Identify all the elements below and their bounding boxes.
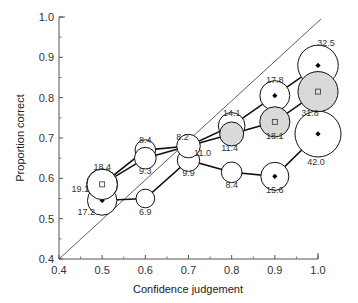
point-size-label: 19.1 <box>71 184 89 194</box>
point-size-label: 18.1 <box>266 131 284 141</box>
x-axis-title: Confidence judgement <box>133 283 243 295</box>
point-size-label: 17.2 <box>77 207 95 217</box>
point-size-label: 14.1 <box>223 108 241 118</box>
point-size-label: 15.6 <box>266 185 284 195</box>
x-tick-label: 0.4 <box>51 264 66 276</box>
y-tick-label: 0.8 <box>39 92 54 104</box>
x-tick-label: 0.8 <box>224 264 239 276</box>
y-axis-title: Proportion correct <box>14 94 26 181</box>
y-tick-label: 0.5 <box>39 213 54 225</box>
y-tick-label: 0.4 <box>39 253 54 265</box>
data-point-circle <box>136 189 155 208</box>
y-tick-label: 0.9 <box>39 51 54 63</box>
y-tick-label: 0.6 <box>39 172 54 184</box>
data-point-circle <box>87 169 117 199</box>
x-tick-label: 1.0 <box>310 264 325 276</box>
x-tick-label: 0.7 <box>181 264 196 276</box>
point-size-label: 31.8 <box>301 108 319 118</box>
point-size-label: 17.8 <box>266 75 284 85</box>
x-tick-label: 0.6 <box>138 264 153 276</box>
point-size-label: 42.0 <box>307 157 325 167</box>
point-size-label: 11.0 <box>194 148 211 158</box>
x-tick-label: 0.9 <box>267 264 282 276</box>
calibration-chart: 0.40.50.60.70.80.91.0 0.40.50.60.70.80.9… <box>0 0 358 303</box>
point-size-label: 18.4 <box>93 162 111 172</box>
point-size-label: 8.2 <box>176 132 189 142</box>
data-point-circle <box>298 72 338 112</box>
x-tick-label: 0.5 <box>95 264 110 276</box>
point-size-label: 8.4 <box>225 180 238 190</box>
x-ticks: 0.40.50.60.70.80.91.0 <box>51 255 325 276</box>
point-size-label: 9.3 <box>139 166 152 176</box>
y-tick-label: 1.0 <box>39 11 54 23</box>
point-size-label: 8.4 <box>139 135 152 145</box>
point-size-label: 32.5 <box>317 38 335 48</box>
point-size-label: 11.4 <box>221 143 238 153</box>
series-points <box>87 45 341 215</box>
y-tick-label: 0.7 <box>39 132 54 144</box>
point-size-label: 6.9 <box>139 207 152 217</box>
point-size-label: 9.9 <box>182 168 195 178</box>
